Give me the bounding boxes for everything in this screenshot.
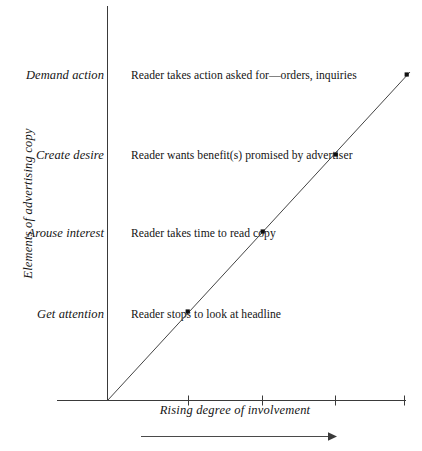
data-point-arouse-interest xyxy=(261,229,265,233)
data-point-get-attention xyxy=(186,309,190,313)
data-point-create-desire xyxy=(334,152,338,156)
chart-canvas xyxy=(0,0,422,451)
advertising-copy-involvement-chart: Elements of advertising copy Demand acti… xyxy=(0,0,422,451)
x-axis-title: Rising degree of involvement xyxy=(110,403,360,418)
rightwards-arrow-icon xyxy=(328,432,337,441)
trend-line xyxy=(108,72,411,401)
data-point-demand-action xyxy=(405,72,409,76)
